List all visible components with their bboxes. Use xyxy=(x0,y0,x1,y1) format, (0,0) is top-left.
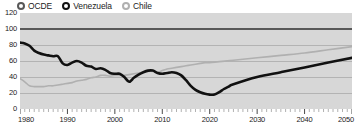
y-tick-label: 80 xyxy=(9,41,17,49)
y-tick-label: 120 xyxy=(5,9,17,17)
x-tick-label: 2010 xyxy=(154,116,170,124)
legend-label-chile: Chile xyxy=(133,2,152,11)
x-tick-label: 2030 xyxy=(249,116,265,124)
chart-legend: OCDE Venezuela Chile xyxy=(17,0,152,12)
x-tick-label: 1980 xyxy=(18,116,34,124)
legend-label-venezuela: Venezuela xyxy=(73,2,112,11)
chart-container: OCDE Venezuela Chile 020406080100120 198… xyxy=(0,0,356,129)
legend-label-ocde: OCDE xyxy=(28,2,52,11)
y-tick-label: 0 xyxy=(13,105,17,113)
legend-item-chile[interactable]: Chile xyxy=(122,2,152,11)
legend-marker-venezuela-icon xyxy=(62,2,70,10)
legend-marker-chile-icon xyxy=(122,2,130,10)
x-tick-label: 2000 xyxy=(107,116,123,124)
legend-item-ocde[interactable]: OCDE xyxy=(17,2,52,11)
plot-svg xyxy=(20,13,352,109)
x-axis-labels: 19801990200020102020203020402050 xyxy=(20,116,352,128)
series-line-venezuela xyxy=(20,43,352,95)
x-tick-label: 1990 xyxy=(59,116,75,124)
plot-area xyxy=(20,13,352,109)
y-tick-label: 60 xyxy=(9,57,17,65)
x-tick-label: 2020 xyxy=(202,116,218,124)
gridlines xyxy=(20,30,352,110)
y-tick-label: 100 xyxy=(5,25,17,33)
y-axis-labels: 020406080100120 xyxy=(0,13,18,109)
x-tick-label: 2050 xyxy=(338,116,354,124)
y-tick-label: 20 xyxy=(9,89,17,97)
legend-marker-ocde-icon xyxy=(17,2,25,10)
y-tick-label: 40 xyxy=(9,73,17,81)
legend-item-venezuela[interactable]: Venezuela xyxy=(62,2,112,11)
x-tick-label: 2040 xyxy=(297,116,313,124)
series-lines xyxy=(20,29,352,95)
